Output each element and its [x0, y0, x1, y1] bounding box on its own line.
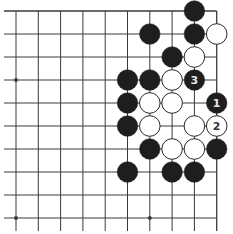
- go-board[interactable]: 312: [0, 0, 233, 234]
- black-stone: [162, 162, 183, 183]
- star-point: [148, 216, 152, 220]
- white-stone: [140, 116, 161, 137]
- go-board-canvas[interactable]: 312: [0, 0, 233, 234]
- star-point: [14, 216, 18, 220]
- move-number-label: 3: [191, 74, 199, 87]
- white-stone: [184, 139, 205, 160]
- white-stone: [162, 93, 183, 114]
- black-stone: [117, 93, 138, 114]
- white-stone-move-2: 2: [206, 116, 227, 137]
- white-stone: [184, 116, 205, 137]
- black-stone: [162, 47, 183, 68]
- black-stone: [140, 139, 161, 160]
- black-stone: [184, 162, 205, 183]
- move-number-label: 2: [213, 120, 221, 133]
- grid-lines: [4, 11, 217, 231]
- black-stone: [140, 70, 161, 91]
- white-stone: [206, 24, 227, 45]
- black-stone: [117, 116, 138, 137]
- black-stone: [206, 139, 227, 160]
- white-stone: [184, 47, 205, 68]
- white-stone: [140, 93, 161, 114]
- white-stone: [162, 139, 183, 160]
- black-stone: [117, 162, 138, 183]
- black-stone: [117, 70, 138, 91]
- black-stone: [140, 24, 161, 45]
- star-point: [14, 78, 18, 82]
- black-stone: [184, 24, 205, 45]
- black-stone-move-1: 1: [206, 93, 227, 114]
- white-stone: [162, 70, 183, 91]
- black-stone-move-3: 3: [184, 70, 205, 91]
- black-stone: [184, 1, 205, 22]
- move-number-label: 1: [213, 97, 221, 110]
